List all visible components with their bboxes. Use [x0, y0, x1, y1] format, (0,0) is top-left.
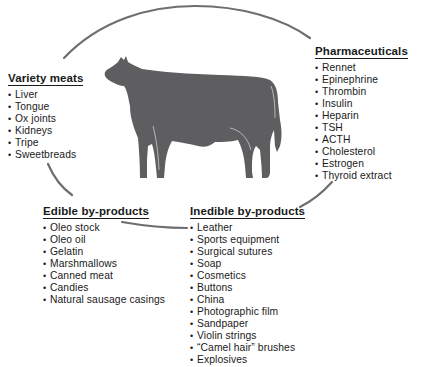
list-item: •Ox joints [8, 113, 83, 125]
oval-left-lower-arc [48, 164, 72, 195]
list-item: •China [190, 294, 305, 306]
list-item: •Gelatin [43, 246, 165, 258]
list-item: •Thyroid extract [315, 170, 408, 182]
list-item: •Kidneys [8, 125, 83, 137]
list-item: •Cosmetics [190, 270, 305, 282]
list-item: •Rennet [315, 62, 408, 74]
list-item: •Heparin [315, 110, 408, 122]
pharmaceuticals-group: Pharmaceuticals •Rennet •Epinephrine •Th… [315, 41, 408, 182]
list-item: •Thrombin [315, 86, 408, 98]
list-item: •Liver [8, 89, 83, 101]
list-item: •Candies [43, 282, 165, 294]
item-list: •Oleo stock •Oleo oil •Gelatin •Marshmal… [43, 222, 165, 306]
list-item: •Photographic film [190, 306, 305, 318]
list-item: •Violin strings [190, 330, 305, 342]
list-item: •Epinephrine [315, 74, 408, 86]
list-item: •Canned meat [43, 270, 165, 282]
variety-meats-group: Variety meats •Liver •Tongue •Ox joints … [8, 68, 83, 161]
item-list: •Rennet •Epinephrine •Thrombin •Insulin … [315, 62, 408, 182]
item-list: •Liver •Tongue •Ox joints •Kidneys •Trip… [8, 89, 83, 161]
edible-byproducts-group: Edible by-products •Oleo stock •Oleo oil… [43, 201, 165, 306]
group-title: Variety meats [8, 72, 83, 86]
list-item: •Oleo stock [43, 222, 165, 234]
list-item: •Sandpaper [190, 318, 305, 330]
list-item: •Insulin [315, 98, 408, 110]
list-item: •Cholesterol [315, 146, 408, 158]
list-item: •Estrogen [315, 158, 408, 170]
group-title: Edible by-products [43, 205, 149, 219]
list-item: •Sports equipment [190, 234, 305, 246]
list-item: •Soap [190, 258, 305, 270]
group-title: Inedible by-products [190, 205, 305, 219]
list-item: •ACTH [315, 134, 408, 146]
inedible-byproducts-group: Inedible by-products •Leather •Sports eq… [190, 201, 305, 366]
group-title: Pharmaceuticals [315, 45, 408, 59]
cow-silhouette-icon [105, 56, 282, 178]
list-item: •Marshmallows [43, 258, 165, 270]
list-item: •Tripe [8, 137, 83, 149]
list-item: •Natural sausage casings [43, 294, 165, 306]
list-item: •Oleo oil [43, 234, 165, 246]
list-item: •Surgical sutures [190, 246, 305, 258]
list-item: •Explosives [190, 354, 305, 366]
list-item: •“Camel hair” brushes [190, 342, 305, 354]
item-list: •Leather •Sports equipment •Surgical sut… [190, 222, 305, 366]
oval-top-arc [64, 6, 310, 58]
list-item: •Buttons [190, 282, 305, 294]
list-item: •Leather [190, 222, 305, 234]
list-item: •Sweetbreads [8, 149, 83, 161]
list-item: •Tongue [8, 101, 83, 113]
byproducts-diagram: Variety meats •Liver •Tongue •Ox joints … [0, 0, 424, 367]
list-item: •TSH [315, 122, 408, 134]
